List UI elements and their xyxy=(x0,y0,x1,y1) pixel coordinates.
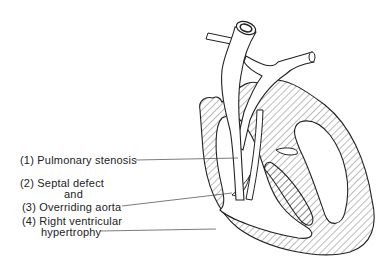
label-number: (3) xyxy=(22,201,36,213)
label-number: (4) xyxy=(22,215,36,227)
label-septal-defect: (2) Septal defect xyxy=(20,177,104,189)
label-rv-hypertrophy-line2: hypertrophy xyxy=(41,226,101,238)
label-overriding-aorta: (3) Overriding aorta xyxy=(22,201,121,213)
label-text: Pulmonary stenosis xyxy=(37,154,137,166)
label-pulmonary-stenosis: (1) Pulmonary stenosis xyxy=(20,154,137,166)
label-text: and xyxy=(64,188,83,200)
label-number: (1) xyxy=(20,154,34,166)
label-and: and xyxy=(64,188,83,200)
heart-diagram: (1) Pulmonary stenosis (2) Septal defect… xyxy=(0,0,386,277)
label-number: (2) xyxy=(20,177,34,189)
label-text: Overriding aorta xyxy=(39,201,121,213)
label-text: hypertrophy xyxy=(41,226,101,238)
